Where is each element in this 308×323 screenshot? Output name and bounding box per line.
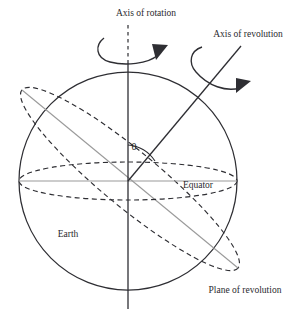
equator-label: Equator <box>183 180 214 190</box>
plane-of-revolution-label: Plane of revolution <box>209 285 282 295</box>
earth-axis-diagram: Axis of rotation Axis of revolution θ Eq… <box>0 0 308 323</box>
earth-axis-diagram-container: Axis of rotation Axis of revolution θ Eq… <box>0 0 308 323</box>
axis-of-revolution-label: Axis of revolution <box>213 29 283 39</box>
rotation-spin-arrow-icon <box>98 38 168 64</box>
theta-angle-label: θ <box>131 141 136 152</box>
revolution-arrowhead-icon <box>236 78 251 93</box>
earth-label: Earth <box>58 229 79 239</box>
axis-of-rotation-label: Axis of rotation <box>116 8 176 18</box>
axis-of-revolution-line <box>128 46 241 181</box>
